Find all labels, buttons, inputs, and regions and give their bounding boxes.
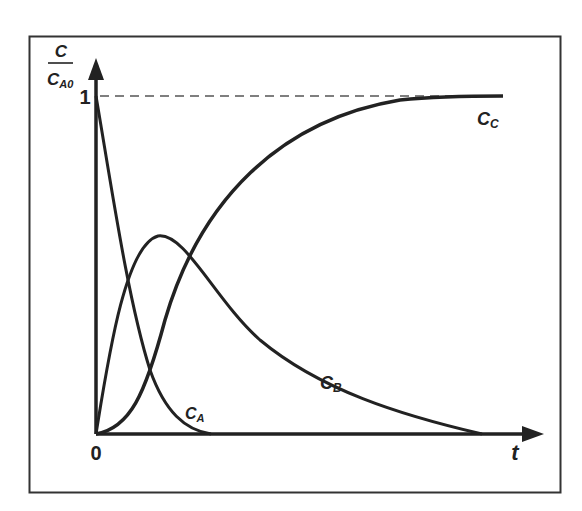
curve-cb bbox=[96, 236, 482, 434]
y-label-denominator: CA0 bbox=[47, 70, 74, 90]
label-cc: CC bbox=[477, 109, 499, 131]
x-axis-label: t bbox=[511, 440, 520, 465]
label-ca-main: C bbox=[185, 405, 197, 422]
y-axis-arrow-icon bbox=[88, 58, 104, 80]
label-cc-main: C bbox=[477, 109, 491, 129]
x-axis-arrow-icon bbox=[522, 426, 544, 442]
y-tick-one: 1 bbox=[79, 86, 90, 108]
label-ca-sub: A bbox=[196, 412, 205, 424]
label-cc-sub: C bbox=[490, 117, 499, 131]
chart-frame bbox=[30, 37, 561, 493]
label-cb-sub: B bbox=[333, 381, 342, 395]
concentration-time-chart: C CA0 1 0 t CA CB CC bbox=[0, 0, 582, 511]
y-label-numerator: C bbox=[55, 42, 68, 61]
label-cb-main: C bbox=[320, 373, 334, 393]
y-label-denominator-main: C bbox=[47, 70, 60, 89]
curve-cc bbox=[96, 96, 503, 434]
label-ca: CA bbox=[185, 405, 205, 424]
curve-ca bbox=[96, 96, 211, 434]
label-cb: CB bbox=[320, 373, 342, 395]
origin-label: 0 bbox=[90, 442, 101, 464]
y-label-denominator-sub: A0 bbox=[58, 78, 74, 90]
